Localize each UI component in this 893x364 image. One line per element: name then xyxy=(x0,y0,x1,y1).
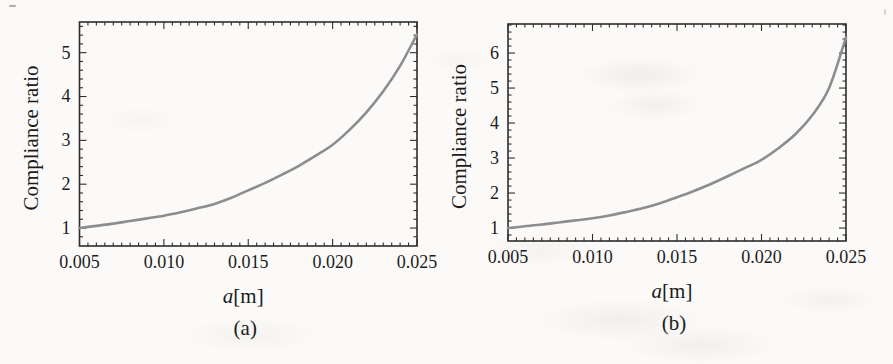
x-axis-tick-label: 0.020 xyxy=(312,252,353,272)
x-axis-tick-label: 0.005 xyxy=(488,247,529,267)
x-axis-tick-label: 0.010 xyxy=(144,252,185,272)
plot-frame xyxy=(80,22,418,246)
y-axis-label: Compliance ratio xyxy=(447,64,471,209)
x-axis-tick-label: 0.025 xyxy=(397,252,438,272)
scan-speck xyxy=(9,5,16,7)
y-axis-tick-label: 2 xyxy=(62,174,71,194)
scanned-figure-page: 0.0050.0100.0150.0200.02512345Compliance… xyxy=(0,0,893,364)
compliance-ratio-curve xyxy=(80,34,418,228)
x-axis-tick-label: 0.020 xyxy=(741,247,782,267)
y-axis-tick-label: 4 xyxy=(490,113,499,133)
compliance-ratio-curve xyxy=(508,37,846,228)
chart-b-compliance-ratio-plot: 0.0050.0100.0150.0200.025123456Complianc… xyxy=(447,24,866,335)
x-axis-tick-label: 0.015 xyxy=(228,252,269,272)
y-axis-tick-label: 3 xyxy=(62,130,71,150)
subfigure-caption: (b) xyxy=(662,311,687,335)
y-axis-tick-label: 5 xyxy=(490,78,499,98)
x-axis-label: a[m] xyxy=(652,279,693,303)
chart-a-compliance-ratio-plot: 0.0050.0100.0150.0200.02512345Compliance… xyxy=(19,22,438,340)
scan-speck xyxy=(884,9,886,15)
y-axis-tick-label: 3 xyxy=(490,148,499,168)
y-axis-tick-label: 6 xyxy=(490,43,499,63)
y-axis-tick-label: 2 xyxy=(490,183,499,203)
y-axis-tick-label: 4 xyxy=(62,86,71,106)
subfigure-caption: (a) xyxy=(234,316,257,340)
y-axis-tick-label: 1 xyxy=(62,218,71,238)
y-axis-tick-label: 1 xyxy=(490,218,499,238)
x-axis-label: a[m] xyxy=(223,284,264,308)
x-axis-tick-label: 0.010 xyxy=(572,247,613,267)
y-axis-label: Compliance ratio xyxy=(19,65,43,210)
x-axis-tick-label: 0.005 xyxy=(59,252,100,272)
charts-canvas: 0.0050.0100.0150.0200.02512345Compliance… xyxy=(0,0,893,364)
y-axis-tick-label: 5 xyxy=(62,43,71,63)
x-axis-tick-label: 0.025 xyxy=(826,247,867,267)
x-axis-tick-label: 0.015 xyxy=(657,247,698,267)
